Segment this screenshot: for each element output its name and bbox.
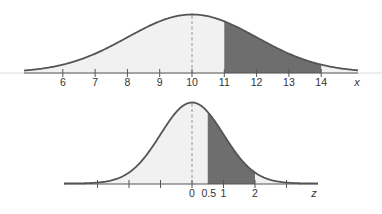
normal-distribution-figure: 67891011121314 x 00.512 z <box>0 0 382 214</box>
tick-label: 14 <box>315 76 327 88</box>
tick-label: 12 <box>251 76 263 88</box>
z-distribution-chart: 00.512 z <box>64 103 318 200</box>
z-axis-label: z <box>310 187 317 199</box>
shaded-area-11-to-14 <box>224 21 321 73</box>
x-axis-label: x <box>353 76 360 88</box>
tick-label: 7 <box>92 76 98 88</box>
tick-label: 0.5 <box>201 187 216 199</box>
tick-label: 13 <box>283 76 295 88</box>
tick-label: 1 <box>221 187 227 199</box>
tick-label: 6 <box>60 76 66 88</box>
tick-label: 10 <box>186 76 198 88</box>
x-distribution-chart: 67891011121314 x <box>0 15 382 89</box>
shaded-area-0.5-to-2 <box>208 112 255 184</box>
tick-label: 0 <box>189 187 195 199</box>
tick-label: 9 <box>157 76 163 88</box>
tick-label: 2 <box>252 187 258 199</box>
tick-label: 8 <box>124 76 130 88</box>
tick-label: 11 <box>219 76 230 88</box>
unshaded-area <box>64 103 318 184</box>
